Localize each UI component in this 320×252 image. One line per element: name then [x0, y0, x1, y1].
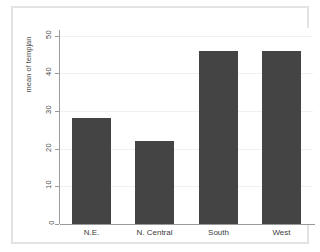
x-axis-line [60, 224, 315, 225]
gridline [60, 36, 313, 37]
y-tick-mark [55, 149, 59, 150]
x-tick-label: N.E. [60, 228, 123, 237]
y-tick-label-text: 50 [44, 30, 53, 39]
y-tick-mark [55, 73, 59, 74]
y-tick-label-text: 40 [44, 67, 53, 76]
y-tick-mark [55, 186, 59, 187]
y-tick-label: 20 [13, 143, 53, 152]
y-tick-label: 30 [13, 105, 53, 114]
chart-screenshot: 01020304050 mean of tempjan N.E.N. Centr… [0, 0, 320, 252]
bar [135, 141, 174, 224]
y-tick-label: 50 [13, 30, 53, 39]
y-tick-label: 0 [13, 218, 53, 227]
y-tick-label-text: 20 [44, 143, 53, 152]
y-axis-title: mean of tempjan [24, 17, 33, 113]
y-tick-label-text: 10 [44, 180, 53, 189]
y-axis-line [59, 30, 60, 224]
y-tick-mark [55, 111, 59, 112]
bar [262, 51, 301, 224]
y-tick-label-text: 30 [44, 105, 53, 114]
x-tick-label: N. Central [123, 228, 186, 237]
y-tick-label: 40 [13, 67, 53, 76]
figure-frame: 01020304050 mean of tempjan N.E.N. Centr… [11, 6, 309, 244]
bar [72, 118, 111, 224]
y-tick-label: 10 [13, 180, 53, 189]
bar [199, 51, 238, 224]
x-tick-label: South [187, 228, 250, 237]
y-tick-label-text: 0 [46, 220, 55, 224]
x-tick-label: West [250, 228, 313, 237]
y-tick-mark [55, 36, 59, 37]
